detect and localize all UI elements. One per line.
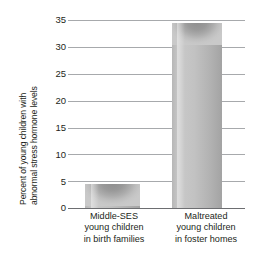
bar-chart-figure: Percent of young children with abnormal … [0, 0, 258, 253]
category-label-line-1: Middle-SES [66, 211, 162, 222]
y-tick-15: 15 [40, 123, 66, 133]
y-axis-title: Percent of young children with abnormal … [0, 0, 44, 215]
x-axis-category-labels: Middle-SES young children in birth famil… [60, 211, 258, 253]
y-axis-title-line-2: abnormal stress hormone levels [29, 86, 41, 205]
bar-highlight [177, 23, 185, 208]
bar-highlight [91, 184, 100, 208]
bar-middle-ses [85, 184, 140, 208]
category-label-maltreated: Maltreated young children in foster home… [158, 211, 254, 245]
category-label-line-3: in foster homes [158, 234, 254, 245]
gridline-baseline-0 [68, 208, 245, 209]
category-label-line-2: young children [158, 222, 254, 233]
y-axis-tick-labels: 35 30 25 20 15 10 5 0 [40, 0, 66, 215]
gridline-35 [68, 20, 245, 21]
y-tick-35: 35 [40, 15, 66, 25]
y-tick-30: 30 [40, 42, 66, 52]
category-label-line-2: young children [66, 222, 162, 233]
category-label-line-3: in birth families [66, 234, 162, 245]
y-tick-20: 20 [40, 96, 66, 106]
bar-maltreated [172, 23, 222, 208]
y-tick-10: 10 [40, 150, 66, 160]
y-tick-5: 5 [40, 177, 66, 187]
y-tick-25: 25 [40, 69, 66, 79]
category-label-line-1: Maltreated [158, 211, 254, 222]
category-label-middle-ses: Middle-SES young children in birth famil… [66, 211, 162, 245]
plot-area [68, 20, 245, 208]
y-axis-title-line-1: Percent of young children with [18, 93, 30, 205]
